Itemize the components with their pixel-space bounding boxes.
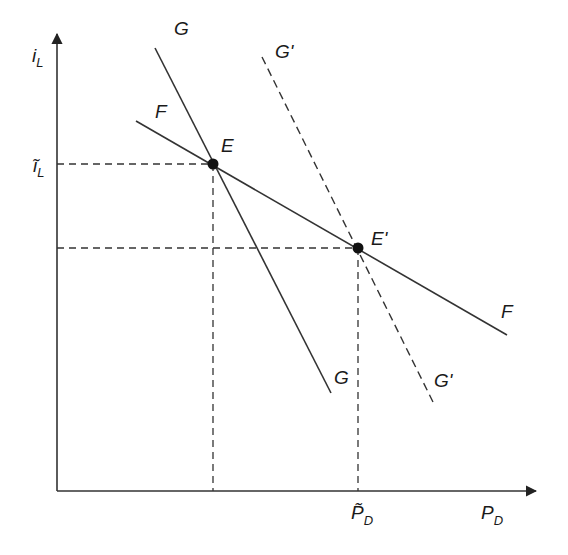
- curve-g-label-end: G: [334, 367, 349, 388]
- point-e-prime: [353, 243, 364, 254]
- y-axis-label: iL: [32, 45, 43, 70]
- curve-g-prime: [262, 57, 433, 402]
- curve-f-label-end: F: [501, 301, 514, 322]
- curve-f: [136, 121, 507, 335]
- y-tick-label: ĩL: [32, 155, 44, 180]
- curve-g-prime-label-end: G': [434, 370, 454, 391]
- curve-f-label-start: F: [155, 101, 168, 122]
- point-e: [208, 159, 219, 170]
- point-e-prime-label: E': [371, 228, 389, 249]
- point-e-label: E: [221, 135, 234, 156]
- diagram-canvas: iL ĩL PD P̃D F F G G G' G' E E': [0, 0, 568, 555]
- curve-g-label-start: G: [174, 18, 189, 39]
- curve-g: [155, 48, 331, 393]
- curve-g-prime-label-start: G': [275, 41, 295, 62]
- x-axis-label: PD: [481, 502, 503, 528]
- x-tick-label: P̃D: [351, 502, 373, 528]
